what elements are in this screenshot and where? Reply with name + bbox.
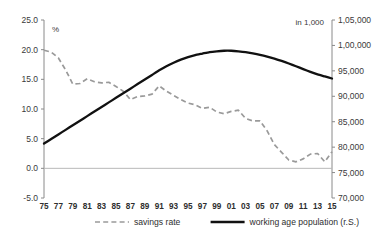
y2-axis-tick-label: 90,000 xyxy=(338,91,364,101)
x-axis-tick-label: 75 xyxy=(39,202,49,211)
right-axis-unit-label: in 1,000 xyxy=(296,18,325,27)
y-axis-tick-label: 15.0 xyxy=(21,74,38,84)
left-axis-unit-label: % xyxy=(52,25,59,34)
x-axis-tick-label: 81 xyxy=(83,202,93,211)
x-axis-tick-label: 89 xyxy=(140,202,150,211)
y-axis-tick-label: -5.0 xyxy=(23,193,38,203)
x-axis-tick-label: 85 xyxy=(111,202,121,211)
y2-axis-tick-label: 70,000 xyxy=(338,193,364,203)
x-axis-tick-label: 15 xyxy=(327,202,337,211)
series-line-savings-rate xyxy=(44,50,332,162)
x-axis-tick-label: 87 xyxy=(126,202,136,211)
x-axis-tick-label: 11 xyxy=(299,202,308,211)
legend-label-1: savings rate xyxy=(134,217,181,227)
y-axis-tick-label: 5.0 xyxy=(26,134,38,144)
y-axis-tick-label: 10.0 xyxy=(21,104,38,114)
x-axis-tick-label: 93 xyxy=(169,202,179,211)
y2-axis-tick-label: 95,000 xyxy=(338,66,364,76)
x-axis-tick-label: 83 xyxy=(97,202,107,211)
y2-axis-tick-label: 1,00,000 xyxy=(338,40,371,50)
chart-axis-titles: %in 1,000 xyxy=(52,18,325,34)
x-axis-tick-label: 99 xyxy=(212,202,222,211)
x-axis-tick-label: 13 xyxy=(313,202,323,211)
chart-container: 25.020.015.010.05.00.0-5.01,05,0001,00,0… xyxy=(0,0,387,238)
x-axis-tick-label: 07 xyxy=(270,202,280,211)
x-axis-tick-label: 91 xyxy=(155,202,165,211)
x-axis-tick-label: 03 xyxy=(241,202,251,211)
legend-label-2: working age population (r.S.) xyxy=(249,217,360,227)
dual-axis-line-chart: 25.020.015.010.05.00.0-5.01,05,0001,00,0… xyxy=(0,0,387,238)
x-axis-tick-label: 95 xyxy=(183,202,193,211)
x-axis-tick-label: 77 xyxy=(54,202,64,211)
y-axis-tick-label: 25.0 xyxy=(21,15,38,25)
y2-axis-tick-label: 85,000 xyxy=(338,117,364,127)
chart-legend: savings rateworking age population (r.S.… xyxy=(95,217,359,227)
y2-axis-tick-label: 1,05,000 xyxy=(338,15,371,25)
series-line-working-age-population-r-s xyxy=(44,51,332,144)
chart-axes: 25.020.015.010.05.00.0-5.01,05,0001,00,0… xyxy=(21,15,371,211)
y2-axis-tick-label: 80,000 xyxy=(338,142,364,152)
x-axis-tick-label: 05 xyxy=(255,202,265,211)
y-axis-tick-label: 0.0 xyxy=(26,163,38,173)
chart-series xyxy=(44,50,332,162)
x-axis-tick-label: 97 xyxy=(198,202,208,211)
y-axis-tick-label: 20.0 xyxy=(21,45,38,55)
x-axis-tick-label: 01 xyxy=(227,202,237,211)
y2-axis-tick-label: 75,000 xyxy=(338,168,364,178)
x-axis-tick-label: 09 xyxy=(284,202,294,211)
x-axis-tick-label: 79 xyxy=(68,202,78,211)
